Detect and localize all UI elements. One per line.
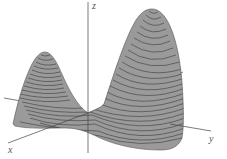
z-axis-label: z <box>92 1 96 11</box>
surface-plot <box>0 0 227 159</box>
y-axis-label: y <box>209 134 213 144</box>
x-axis-label: x <box>8 145 12 155</box>
surface <box>13 9 185 150</box>
